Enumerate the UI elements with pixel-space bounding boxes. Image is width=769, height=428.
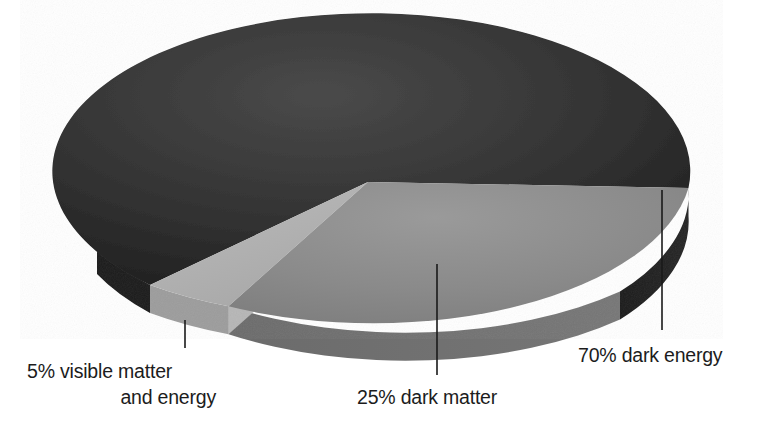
label-visible-matter-line1: 5% visible matter	[27, 360, 173, 382]
pie-top-faces	[52, 13, 690, 323]
label-dark-energy: 70% dark energy	[578, 344, 723, 366]
pie-chart-figure: 5% visible matter and energy 25% dark ma…	[0, 0, 769, 428]
pie-chart-canvas: 5% visible matter and energy 25% dark ma…	[0, 0, 769, 428]
label-visible-matter-line2: and energy	[120, 386, 216, 408]
label-dark-matter: 25% dark matter	[357, 386, 498, 408]
